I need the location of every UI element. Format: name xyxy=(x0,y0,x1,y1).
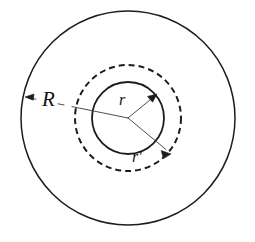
figure-container: R r r' xyxy=(0,0,255,242)
concentric-circles-diagram: R r r' xyxy=(0,0,255,242)
label-R: R xyxy=(41,87,55,111)
label-r-prime: r' xyxy=(132,148,142,165)
label-r: r xyxy=(119,91,126,108)
figure-background xyxy=(0,0,255,242)
